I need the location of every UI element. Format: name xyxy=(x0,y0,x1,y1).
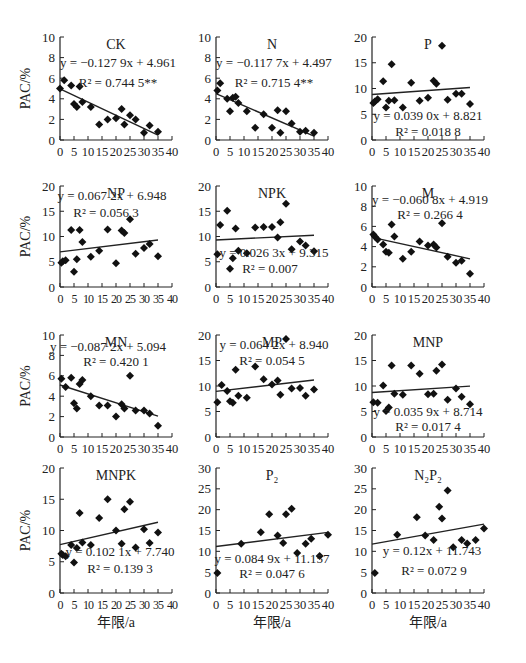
r-squared: R² = 0.007 xyxy=(242,261,298,276)
data-point xyxy=(307,535,315,543)
data-point xyxy=(112,114,120,122)
data-point xyxy=(104,401,112,409)
data-point xyxy=(120,505,128,513)
x-tick-label: 40 xyxy=(478,292,491,306)
y-tick-label: 8 xyxy=(361,199,368,214)
y-tick-label: 10 xyxy=(354,544,367,559)
data-point xyxy=(480,524,488,532)
data-point xyxy=(388,362,396,370)
figure-grid: 02468100510152025303540CKy = −0.127 9x +… xyxy=(0,0,526,663)
data-point xyxy=(390,233,398,241)
trend-line xyxy=(60,89,158,135)
x-tick-label: 0 xyxy=(369,292,375,306)
panel-npk: 051015200510152025303540NPKy = 0.026 3x … xyxy=(198,179,334,307)
data-point xyxy=(430,390,438,398)
panel-np: 051015200510152025303540NPy = 0.067 2x +… xyxy=(18,179,178,307)
regression-equation: y = 0.084 9x + 11.157 xyxy=(215,551,330,566)
data-point xyxy=(260,375,268,383)
y-tick-label: 15 xyxy=(354,353,367,368)
panel-p: 051015200510152025303540Py = 0.039 0x + … xyxy=(354,30,490,160)
data-point xyxy=(62,383,70,391)
x-tick-label: 0 xyxy=(213,145,219,159)
data-point xyxy=(260,110,268,118)
y-tick-label: 5 xyxy=(205,404,212,419)
y-tick-label: 6 xyxy=(361,219,368,234)
r-squared: R² = 0.744 5** xyxy=(79,75,157,90)
data-point xyxy=(70,558,78,566)
x-tick-label: 25 xyxy=(436,292,449,306)
y-tick-label: 20 xyxy=(42,461,55,476)
x-tick-label: 0 xyxy=(213,292,219,306)
data-point xyxy=(154,422,162,430)
x-tick-label: 20 xyxy=(422,598,435,612)
data-point xyxy=(237,540,245,548)
y-tick-label: 0 xyxy=(49,586,56,601)
y-tick-label: 15 xyxy=(198,204,211,219)
x-tick-label: 25 xyxy=(124,145,137,159)
data-point xyxy=(112,413,120,421)
y-tick-label: 15 xyxy=(42,204,55,219)
data-point xyxy=(126,498,134,506)
data-point xyxy=(132,115,140,123)
trend-line xyxy=(60,522,158,544)
data-point xyxy=(232,224,240,232)
x-tick-label: 40 xyxy=(322,145,335,159)
data-point xyxy=(140,244,148,252)
data-point xyxy=(76,509,84,517)
data-point xyxy=(393,531,401,539)
data-point xyxy=(399,391,407,399)
data-point xyxy=(268,380,276,388)
data-point xyxy=(399,255,407,263)
data-point xyxy=(274,106,282,114)
x-tick-label: 20 xyxy=(266,442,279,456)
y-tick-label: 6 xyxy=(205,71,212,86)
data-point xyxy=(223,387,231,395)
regression-equation: y = 0.102 1x + 7.740 xyxy=(66,544,175,559)
y-tick-label: 8 xyxy=(205,50,212,65)
x-tick-label: 30 xyxy=(450,442,463,456)
x-tick-label: 10 xyxy=(238,442,251,456)
x-tick-label: 35 xyxy=(464,442,477,456)
data-point xyxy=(268,124,276,132)
data-point xyxy=(95,401,103,409)
panel-mnpk: 051015200510152025303540MNPKy = 0.102 1x… xyxy=(18,461,178,631)
x-tick-label: 15 xyxy=(252,442,265,456)
x-tick-label: 15 xyxy=(252,145,265,159)
panel-title: CK xyxy=(106,37,125,52)
x-tick-label: 30 xyxy=(294,145,307,159)
data-point xyxy=(243,394,251,402)
data-point xyxy=(95,514,103,522)
y-tick-label: 4 xyxy=(49,91,56,106)
y-tick-label: 10 xyxy=(42,229,55,244)
x-tick-label: 40 xyxy=(478,598,491,612)
data-point xyxy=(226,265,234,273)
data-point xyxy=(288,120,296,128)
y-tick-label: 10 xyxy=(198,229,211,244)
x-tick-label: 25 xyxy=(436,145,449,159)
panel-n₂p₂: 0510152025300510152025303540N₂P₂y = 0.12… xyxy=(354,461,490,631)
y-tick-label: 15 xyxy=(354,55,367,70)
y-tick-label: 30 xyxy=(198,461,211,476)
y-tick-label: 0 xyxy=(361,133,368,148)
data-point xyxy=(388,60,396,68)
x-tick-label: 0 xyxy=(213,442,219,456)
y-tick-label: 5 xyxy=(49,554,56,569)
x-tick-label: 35 xyxy=(152,145,165,159)
y-tick-label: 4 xyxy=(205,91,212,106)
x-tick-label: 15 xyxy=(97,598,108,612)
x-tick-label: 20 xyxy=(266,598,279,612)
data-point xyxy=(218,381,226,389)
panel-title: P₂ xyxy=(266,468,279,483)
x-tick-label: 35 xyxy=(308,598,321,612)
x-axis-label: 年限/a xyxy=(97,615,136,630)
x-tick-label: 40 xyxy=(322,442,335,456)
data-point xyxy=(154,528,162,536)
x-tick-label: 10 xyxy=(83,292,94,306)
y-tick-label: 10 xyxy=(42,523,55,538)
y-tick-label: 20 xyxy=(198,179,211,194)
regression-equation: y = −0.117 7x + 4.497 xyxy=(216,55,332,70)
data-point xyxy=(120,121,128,129)
x-tick-label: 30 xyxy=(138,442,151,456)
data-point xyxy=(154,252,162,260)
data-point xyxy=(379,381,387,389)
